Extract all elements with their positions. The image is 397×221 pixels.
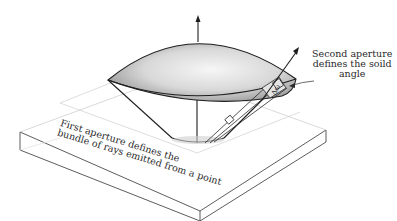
axis-arrow-icon: [196, 15, 201, 42]
second-aperture-label: Second aperture defines the soild angle: [312, 49, 392, 79]
first-aperture: [225, 115, 234, 124]
aperture-diagram: [0, 0, 397, 221]
second-aperture-label-line3: angle: [312, 69, 392, 79]
